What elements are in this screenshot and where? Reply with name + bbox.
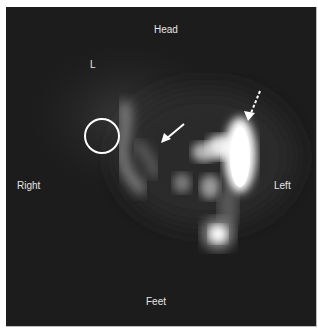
intense-uptake-core xyxy=(230,127,250,187)
uptake-blob xyxy=(200,175,220,199)
label-right: Right xyxy=(17,181,40,191)
scan-graphic xyxy=(6,7,316,326)
scan-image: Head L Right Left Feet xyxy=(6,7,317,327)
label-head: Head xyxy=(154,25,178,35)
label-feet: Feet xyxy=(146,297,166,307)
bladder-uptake xyxy=(209,225,227,243)
uptake-blob xyxy=(173,173,191,193)
label-left: Left xyxy=(274,181,291,191)
label-marker-l: L xyxy=(90,60,96,70)
